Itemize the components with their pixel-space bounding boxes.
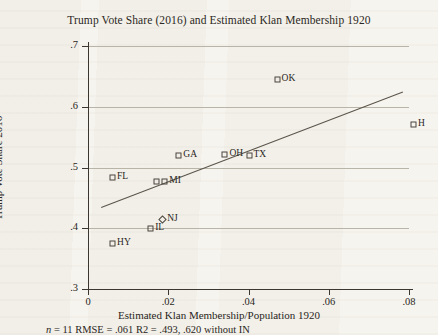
data-point-label-oh: OH (229, 148, 243, 158)
x-tick-label-p06: .06 (309, 296, 349, 307)
data-point-label-fl: FL (117, 171, 128, 181)
data-point-label-ok: OK (282, 73, 296, 83)
y-tick-mark (82, 107, 88, 108)
data-point-label-il: IL (155, 222, 164, 232)
x-tick-mark (249, 289, 250, 295)
chart-annotation: n = 11 RMSE = .061 R2 = .493, .620 witho… (46, 324, 250, 335)
regression-fit-line (101, 92, 403, 208)
y-tick-label-7: .7 (38, 39, 78, 50)
x-tick-mark (88, 289, 89, 295)
gridline-y-5 (88, 168, 409, 169)
x-tick-mark (168, 289, 169, 295)
data-point-oh (222, 152, 228, 158)
data-point (154, 178, 160, 184)
annotation-stats: = 11 RMSE = .061 R2 = .493, .620 without… (51, 324, 250, 335)
data-point-mi (162, 178, 168, 184)
data-point-ok (274, 77, 280, 83)
data-point-tx (246, 153, 252, 159)
x-tick-mark (409, 289, 410, 295)
y-tick-mark (82, 228, 88, 229)
y-tick-mark (82, 168, 88, 169)
data-point-label-hy: HY (117, 237, 131, 247)
gridline-y-7 (88, 46, 409, 47)
data-point-il (148, 226, 154, 232)
x-tick-label-0: 0 (68, 296, 108, 307)
data-point-label-mi: MI (169, 175, 181, 185)
data-point-hy (110, 241, 116, 247)
y-tick-label-6: .6 (38, 100, 78, 111)
data-point-ga (176, 153, 182, 159)
y-tick-label-5: .5 (38, 161, 78, 172)
y-tick-label-4: .4 (38, 221, 78, 232)
y-tick-mark (82, 46, 88, 47)
data-point-label-nj: NJ (167, 213, 178, 223)
x-tick-label-p04: .04 (229, 296, 269, 307)
chart-title: Trump Vote Share (2016) and Estimated Kl… (0, 14, 438, 26)
x-tick-label-p08: .08 (389, 296, 429, 307)
data-point-label-h: H (418, 118, 425, 128)
y-axis-line (88, 42, 89, 293)
gridline-y-4 (88, 228, 409, 229)
scatter-chart-figure: Trump Vote Share (2016) and Estimated Kl… (0, 0, 438, 335)
data-point-h (411, 121, 417, 127)
data-point-fl (110, 174, 116, 180)
x-tick-mark (329, 289, 330, 295)
y-axis-title-text: Trump Vote Share 2016 (0, 115, 4, 220)
y-tick-label-3: .3 (38, 282, 78, 293)
x-tick-label-p02: .02 (148, 296, 188, 307)
plot-area: HYFLILNJMIGAOHTXOKH (88, 46, 409, 289)
data-point-label-tx: TX (254, 149, 267, 159)
data-point-label-ga: GA (183, 149, 197, 159)
x-axis-title: Estimated Klan Membership/Population 192… (0, 309, 438, 321)
